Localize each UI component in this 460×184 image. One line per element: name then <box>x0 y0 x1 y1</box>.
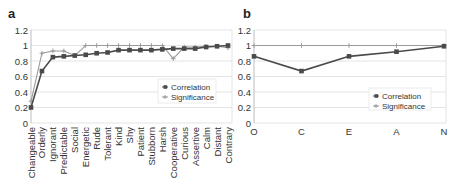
x-tick-label: Ignorant <box>47 127 58 162</box>
plus-marker-icon <box>105 43 110 48</box>
legend: CorrelationSignificance <box>369 88 431 111</box>
x-tick-label: Changeable <box>26 127 37 178</box>
x-tick-label: Rude <box>91 127 102 150</box>
square-marker-icon <box>347 54 352 59</box>
x-tick-label: Cooperative <box>168 127 179 178</box>
plus-marker-icon <box>347 43 352 48</box>
square-marker-icon <box>193 46 198 51</box>
square-marker-icon <box>29 105 34 110</box>
y-tick-label: 0 <box>23 118 28 129</box>
y-tick-label: 1 <box>246 40 251 51</box>
square-marker-icon <box>127 48 132 53</box>
panel-label: a <box>8 6 16 21</box>
square-marker-icon <box>299 69 304 74</box>
x-tick-label: Harsh <box>157 127 168 152</box>
figure: a00.20.40.60.811.2ChangeableOrderlyIgnor… <box>0 0 460 184</box>
y-tick-label: 0.6 <box>238 71 251 82</box>
plus-marker-icon <box>138 43 143 48</box>
legend-label: Significance <box>171 93 215 102</box>
x-tick-label: Kind <box>113 127 124 146</box>
y-tick-label: 0.6 <box>15 71 28 82</box>
x-tick-label: Patient <box>135 127 146 157</box>
x-tick-label: Tolerant <box>102 127 113 161</box>
y-tick-label: 0.4 <box>15 87 28 98</box>
x-tick-label: A <box>393 126 400 137</box>
square-marker-icon <box>83 53 88 58</box>
y-tick-label: 1 <box>23 40 28 51</box>
y-tick-label: 1.2 <box>238 25 251 36</box>
plus-marker-icon <box>116 43 121 48</box>
plus-marker-icon <box>51 49 56 54</box>
plus-marker-icon <box>299 43 304 48</box>
square-marker-icon <box>160 47 165 52</box>
x-tick-label: O <box>250 126 257 137</box>
x-tick-label: N <box>441 126 448 137</box>
plus-marker-icon <box>40 51 45 56</box>
plus-marker-icon <box>62 49 67 54</box>
y-tick-label: 0.8 <box>15 56 28 67</box>
series-correlation <box>252 44 447 73</box>
x-tick-label: Contrary <box>223 127 234 164</box>
y-tick-label: 1.2 <box>15 25 28 36</box>
x-tick-label: Curious <box>179 127 190 160</box>
plus-marker-icon <box>149 43 154 48</box>
plus-marker-icon <box>252 43 257 48</box>
x-tick-label: Assertive <box>190 127 201 166</box>
square-marker-icon <box>40 69 45 74</box>
panel-label: b <box>243 6 251 21</box>
square-marker-icon <box>138 48 143 53</box>
legend: CorrelationSignificance <box>158 79 216 103</box>
x-tick-label: Social <box>69 127 80 153</box>
legend-label: Correlation <box>382 92 421 101</box>
x-tick-label: Stubborn <box>146 127 157 166</box>
square-marker-icon <box>442 44 447 49</box>
series-significance <box>252 43 447 48</box>
x-tick-label: Orderly <box>36 127 47 158</box>
square-marker-icon <box>72 53 77 58</box>
square-marker-icon <box>164 85 168 89</box>
y-tick-label: 0.8 <box>238 56 251 67</box>
x-tick-label: Predictable <box>58 127 69 175</box>
square-marker-icon <box>105 50 110 55</box>
square-marker-icon <box>204 45 209 50</box>
square-marker-icon <box>226 43 231 48</box>
square-marker-icon <box>375 94 379 98</box>
x-tick-label: Calm <box>201 127 212 149</box>
square-marker-icon <box>252 54 257 59</box>
y-tick-label: 0.2 <box>15 102 28 113</box>
square-marker-icon <box>51 55 56 60</box>
legend-label: Significance <box>382 102 426 111</box>
x-tick-label: Shy <box>124 127 135 144</box>
square-marker-icon <box>116 48 121 53</box>
square-marker-icon <box>215 44 220 49</box>
plus-marker-icon <box>94 43 99 48</box>
square-marker-icon <box>149 48 154 53</box>
x-tick-label: Energetic <box>80 127 91 167</box>
y-tick-label: 0.4 <box>238 87 251 98</box>
x-tick-label: E <box>346 126 352 137</box>
chart-panel-a: a00.20.40.60.811.2ChangeableOrderlyIgnor… <box>8 6 234 178</box>
square-marker-icon <box>394 49 399 54</box>
y-tick-label: 0.2 <box>238 102 251 113</box>
square-marker-icon <box>171 46 176 51</box>
x-tick-label: C <box>298 126 305 137</box>
plus-marker-icon <box>394 43 399 48</box>
square-marker-icon <box>182 46 187 51</box>
x-tick-label: Distant <box>212 127 223 157</box>
chart-panel-b: b00.20.40.60.811.2OCEANCorrelationSignif… <box>238 6 448 137</box>
legend-label: Correlation <box>171 83 210 92</box>
plus-marker-icon <box>127 43 132 48</box>
square-marker-icon <box>94 51 99 56</box>
square-marker-icon <box>62 54 67 59</box>
series-line <box>254 46 444 71</box>
